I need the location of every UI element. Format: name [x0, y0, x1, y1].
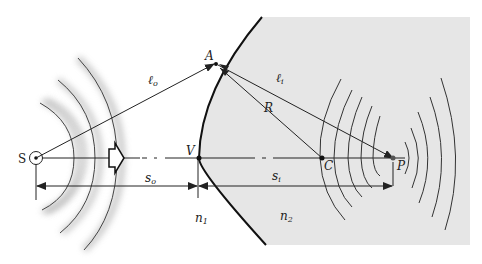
label-A: A: [204, 49, 214, 63]
label-V: V: [186, 144, 196, 158]
label-C: C: [324, 159, 333, 173]
label-S: S: [18, 152, 26, 166]
medium-n2-region: [199, 17, 470, 245]
image-point-P: [391, 156, 396, 161]
label-n1: n1: [195, 211, 208, 226]
label-P: P: [396, 159, 406, 173]
label-so: so: [145, 171, 156, 186]
vertex-point-V: [197, 156, 202, 161]
label-lo: ℓo: [148, 73, 158, 88]
refraction-diagram: S A V C P R ℓo ℓi so si n1 n2: [0, 0, 482, 264]
label-R: R: [263, 101, 273, 115]
